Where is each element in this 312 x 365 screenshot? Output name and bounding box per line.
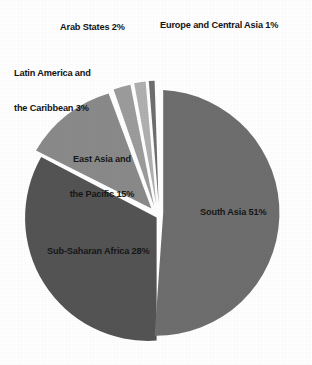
pie-label-sub-saharan-africa: Sub-Saharan Africa 28% [47,246,150,258]
pie-label-latin-america-caribbean: Latin America and the Caribbean 3% [14,45,91,138]
pie-label-east-asia-pacific-line2: the Pacific 15% [58,189,146,201]
pie-chart-figure: Europe and Central Asia 1% Arab States 2… [0,0,312,365]
pie-label-south-asia: South Asia 51% [200,207,266,219]
pie-label-arab-states: Arab States 2% [60,22,125,34]
pie-label-europe-central-asia: Europe and Central Asia 1% [160,20,278,32]
pie-label-east-asia-pacific-line1: East Asia and [58,154,146,166]
pie-label-latin-america-caribbean-line2: the Caribbean 3% [14,103,91,115]
pie-label-east-asia-pacific: East Asia and the Pacific 15% [58,131,146,224]
pie-label-latin-america-caribbean-line1: Latin America and [14,68,91,80]
